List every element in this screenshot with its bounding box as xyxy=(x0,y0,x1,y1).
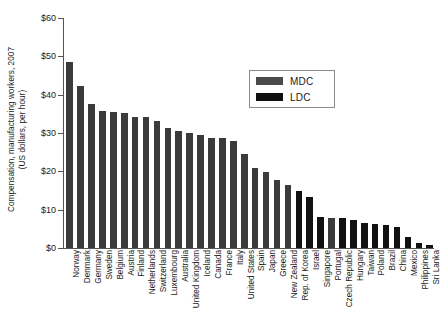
x-axis-tick-label: Iceland xyxy=(204,224,212,250)
y-axis-tick-label: $30 xyxy=(41,128,56,138)
bar[interactable] xyxy=(66,62,73,248)
legend-label-mdc: MDC xyxy=(290,76,313,87)
x-axis-tick-label: Australia xyxy=(182,218,190,250)
x-axis-tick-label: Taiwan xyxy=(368,225,376,251)
x-axis-tick-label: Spain xyxy=(258,229,266,250)
y-axis-tick-labels: $0$10$20$30$40$50$60 xyxy=(20,18,56,248)
x-axis-tick-label: Germany xyxy=(95,216,103,250)
legend-swatch-mdc-icon xyxy=(256,77,283,85)
legend-item-mdc[interactable]: MDC xyxy=(256,74,313,88)
x-axis-tick-label: Hungary xyxy=(357,219,365,250)
x-axis-tick-label: Poland xyxy=(378,225,386,251)
x-axis-tick-label: Singapore xyxy=(324,213,332,250)
x-axis-tick-label: China xyxy=(400,229,408,250)
x-axis-tick-label: Norway xyxy=(73,222,81,250)
legend-swatch-ldc-icon xyxy=(256,93,283,101)
bar[interactable] xyxy=(241,154,248,248)
y-axis-title-line-1: Compensation, manufacturing workers, 200… xyxy=(7,47,16,212)
x-axis-tick-label: Philippines xyxy=(422,210,430,250)
x-axis-tick-label: New Zealand xyxy=(291,202,299,250)
x-axis-tick-label: Switzerland xyxy=(160,208,168,250)
legend: MDC LDC xyxy=(249,70,335,108)
x-axis-tick-label: Japan xyxy=(269,228,277,250)
legend-item-ldc[interactable]: LDC xyxy=(256,90,311,104)
x-axis-tick-label: Israel xyxy=(313,230,321,250)
x-axis-tick-label: Netherlands xyxy=(149,206,157,250)
x-axis-tick-label: Finland xyxy=(138,223,146,250)
x-axis-tick-label: Belgium xyxy=(117,220,125,250)
x-axis-tick-label: Canada xyxy=(215,221,223,250)
x-axis-tick-label: Italy xyxy=(237,235,245,250)
y-axis-tick-label: $50 xyxy=(41,51,56,61)
x-axis-tick-label: Brazil xyxy=(389,230,397,250)
y-axis-tick-label: $10 xyxy=(41,205,56,215)
x-axis-tick-label: United States xyxy=(248,201,256,250)
x-axis-tick-label: Portugal xyxy=(335,220,343,251)
x-axis-tick-label: Mexico xyxy=(411,224,419,250)
x-axis-tick-label: Czech Republic xyxy=(346,193,354,250)
x-axis-tick-label: United Kingdom xyxy=(193,192,201,250)
x-axis-tick-label: Denmark xyxy=(84,217,92,250)
y-axis-tick-label: $40 xyxy=(41,90,56,100)
y-axis-tick xyxy=(58,248,63,249)
legend-label-ldc: LDC xyxy=(290,92,311,103)
x-axis-tick-label: Luxembourg xyxy=(171,204,179,250)
x-axis-tick-label: Austria xyxy=(128,225,136,250)
x-axis-tick-label: Sweden xyxy=(106,220,114,250)
x-axis-tick-label: Greece xyxy=(280,223,288,250)
y-axis-tick-label: $60 xyxy=(41,13,56,23)
y-axis-tick-label: $0 xyxy=(46,243,56,253)
x-axis-tick-labels: NorwayDenmarkGermanySwedenBelgiumAustria… xyxy=(63,250,436,328)
x-axis-tick-label: Sri Lanka xyxy=(433,215,441,250)
x-axis-tick-label: Rep. of Korea xyxy=(302,199,310,250)
y-axis-tick-label: $20 xyxy=(41,166,56,176)
x-axis-tick-label: France xyxy=(226,225,234,250)
